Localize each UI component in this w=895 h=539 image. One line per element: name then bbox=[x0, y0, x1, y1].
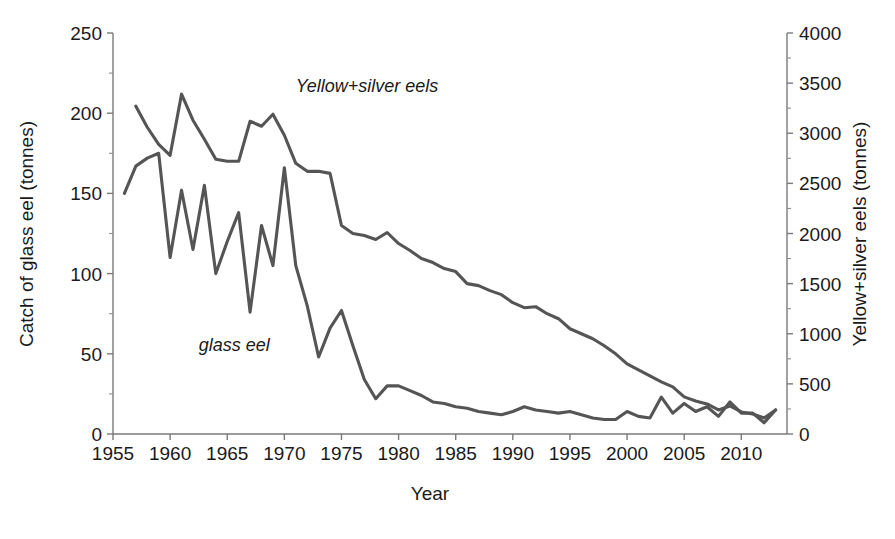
right-tick-label: 1000 bbox=[799, 324, 841, 345]
right-tick-label: 4000 bbox=[799, 23, 841, 44]
right-tick-label: 2500 bbox=[799, 173, 841, 194]
chart-figure: 050100150200250 050010001500200025003000… bbox=[0, 0, 895, 539]
bottom-tick-label: 1990 bbox=[492, 443, 534, 464]
bottom-tick-label: 2010 bbox=[720, 443, 762, 464]
bottom-tick-label: 1960 bbox=[149, 443, 191, 464]
left-axis-title: Catch of glass eel (tonnes) bbox=[16, 121, 37, 347]
dual-axis-line-chart: 050100150200250 050010001500200025003000… bbox=[0, 0, 895, 539]
series-label-glass-eel: glass eel bbox=[199, 335, 271, 355]
bottom-tick-label: 2005 bbox=[663, 443, 705, 464]
left-tick-label: 200 bbox=[70, 103, 102, 124]
bottom-tick-label: 1965 bbox=[206, 443, 248, 464]
left-tick-label: 150 bbox=[70, 183, 102, 204]
left-tick-label: 100 bbox=[70, 264, 102, 285]
bottom-tick-label: 1980 bbox=[377, 443, 419, 464]
bottom-tick-label: 1995 bbox=[549, 443, 591, 464]
bottom-tick-label: 1975 bbox=[320, 443, 362, 464]
right-tick-label: 500 bbox=[799, 374, 831, 395]
right-tick-label: 3500 bbox=[799, 73, 841, 94]
right-tick-label: 1500 bbox=[799, 274, 841, 295]
left-tick-label: 250 bbox=[70, 23, 102, 44]
x-axis-title: Year bbox=[411, 483, 450, 504]
bottom-tick-label: 1970 bbox=[263, 443, 305, 464]
bottom-tick-label: 1985 bbox=[435, 443, 477, 464]
bottom-tick-label: 2000 bbox=[606, 443, 648, 464]
series-label-yellow-silver-eels: Yellow+silver eels bbox=[296, 76, 439, 96]
left-tick-label: 0 bbox=[91, 424, 102, 445]
left-tick-label: 50 bbox=[81, 344, 102, 365]
bottom-tick-label: 1955 bbox=[92, 443, 134, 464]
right-axis-title: Yellow+silver eels (tonnes) bbox=[849, 122, 870, 347]
right-tick-label: 2000 bbox=[799, 224, 841, 245]
right-tick-label: 3000 bbox=[799, 123, 841, 144]
right-tick-label: 0 bbox=[799, 424, 810, 445]
